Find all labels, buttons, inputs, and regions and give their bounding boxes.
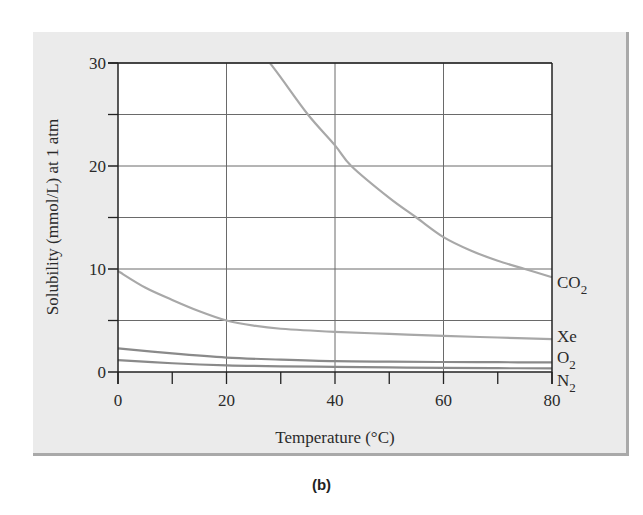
series-label-o2: O2 <box>557 348 576 372</box>
x-axis-title: Temperature (°C) <box>275 428 394 447</box>
figure-caption: (b) <box>0 476 643 493</box>
series-label-xe: Xe <box>557 327 577 346</box>
x-tick-label: 20 <box>218 391 235 410</box>
x-tick-label: 60 <box>435 391 452 410</box>
y-tick-label: 30 <box>89 54 106 73</box>
x-tick-label: 40 <box>327 391 344 410</box>
grid-lines <box>108 63 552 372</box>
x-tick-label: 0 <box>114 391 123 410</box>
solubility-chart: 0204060800102030CO2XeO2N2 Temperature (°… <box>0 0 643 515</box>
y-tick-label: 0 <box>98 363 107 382</box>
x-tick-label: 80 <box>544 391 561 410</box>
y-axis-title: Solubility (mmol/L) at 1 atm <box>43 119 62 315</box>
y-tick-label: 10 <box>89 260 106 279</box>
series-label-co2: CO2 <box>557 273 587 297</box>
y-tick-label: 20 <box>89 157 106 176</box>
